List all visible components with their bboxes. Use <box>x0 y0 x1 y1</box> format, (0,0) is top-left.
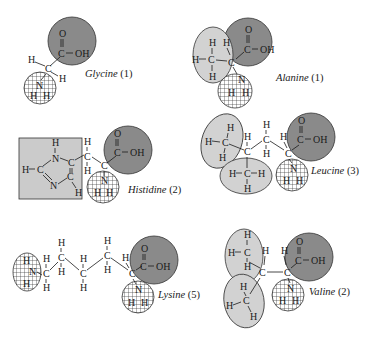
atom-n: N <box>238 74 245 85</box>
atom-h: H <box>28 54 35 65</box>
atom-h: H <box>296 175 303 186</box>
atom-c: C <box>222 137 229 148</box>
atom-oh: OH <box>313 134 327 145</box>
atom-h: H <box>279 295 286 306</box>
atom-c: C <box>84 151 91 162</box>
atom-o: O <box>296 236 303 247</box>
valine-label: Valine (2) <box>309 286 351 298</box>
atom-h: H <box>52 137 59 148</box>
atom-c: C <box>129 268 136 279</box>
atom-h: H <box>240 281 247 292</box>
atom-h: H <box>141 297 148 308</box>
atom-h: H <box>244 131 251 142</box>
atom-h: H <box>84 165 91 176</box>
atom-o: O <box>245 24 252 35</box>
atom-c: C <box>244 247 251 258</box>
atom-n: N <box>50 180 57 191</box>
carboxyl-group <box>285 233 333 281</box>
atom-c: C <box>244 44 251 55</box>
atom-h: H <box>22 164 29 175</box>
atom-h: H <box>244 183 251 194</box>
atom-n: N <box>29 266 36 277</box>
atom-h: H <box>43 282 50 293</box>
atom-n: N <box>52 153 59 164</box>
atom-o: O <box>114 128 121 139</box>
atom-c: C <box>295 255 302 266</box>
atom-h: H <box>262 245 269 256</box>
atom-h: H <box>58 266 65 277</box>
atom-c: C <box>263 134 270 145</box>
atom-n: N <box>287 283 294 294</box>
atom-c: C <box>284 267 291 278</box>
atom-h: H <box>209 37 216 48</box>
alanine-structure: O C OH H H C H H C N H H Alanine (1) <box>192 18 324 108</box>
atom-h: H <box>84 136 91 147</box>
atom-h: H <box>30 90 37 101</box>
lysine-label: Lysine (5) <box>157 289 200 301</box>
atom-h: H <box>106 187 113 198</box>
atom-h: H <box>227 122 234 133</box>
atom-h: H <box>292 295 299 306</box>
atom-c: C <box>208 54 215 65</box>
atom-c: C <box>228 57 235 68</box>
atom-c: C <box>244 146 251 157</box>
alanine-label: Alanine (1) <box>275 72 324 84</box>
amino-acid-diagram: O C OH H C H N H H Glycine (1) O C OH H … <box>0 0 370 342</box>
atom-h: H <box>104 264 111 275</box>
atom-h: H <box>128 297 135 308</box>
atom-h: H <box>192 54 199 65</box>
atom-h: H <box>228 247 235 258</box>
atom-c: C <box>297 134 304 145</box>
carboxyl-group <box>130 236 178 284</box>
atom-h: H <box>75 187 82 198</box>
atom-c: C <box>58 252 65 263</box>
histidine-label: Histidine (2) <box>127 184 182 196</box>
atom-h: H <box>23 278 30 289</box>
atom-o: O <box>298 115 305 126</box>
atom-h: H <box>223 37 230 48</box>
atom-c: C <box>67 171 74 182</box>
atom-h: H <box>94 187 101 198</box>
atom-oh: OH <box>75 48 89 59</box>
atom-h: H <box>80 253 87 264</box>
leucine-structure: H H C H H C H C H H H C H H C O <box>194 108 360 194</box>
atom-c: C <box>259 267 266 278</box>
atom-oh: OH <box>311 255 325 266</box>
valine-structure: H H C H H H C H H C H C O C OH N H <box>220 229 351 331</box>
atom-h: H <box>80 282 87 293</box>
atom-n: N <box>135 284 142 295</box>
atom-h: H <box>283 175 290 186</box>
atom-h: H <box>122 252 129 263</box>
atom-h: H <box>229 168 236 179</box>
atom-h: H <box>205 136 212 147</box>
atom-h: H <box>228 87 235 98</box>
atom-h: H <box>23 255 30 266</box>
atom-c: C <box>140 261 147 272</box>
atom-h: H <box>226 300 233 311</box>
glycine-label: Glycine (1) <box>85 68 133 80</box>
leucine-label: Leucine (3) <box>310 165 360 177</box>
atom-h: H <box>263 148 270 159</box>
atom-c: C <box>43 268 50 279</box>
atom-c: C <box>104 250 111 261</box>
atom-h: H <box>280 131 287 142</box>
atom-h: H <box>59 73 66 84</box>
atom-h: H <box>242 87 249 98</box>
atom-oh: OH <box>260 44 274 55</box>
glycine-structure: O C OH H C H N H H Glycine (1) <box>24 17 133 104</box>
atom-oh: OH <box>156 261 170 272</box>
atom-n: N <box>290 163 297 174</box>
atom-c: C <box>244 168 251 179</box>
atom-o: O <box>141 243 148 254</box>
atom-h: H <box>58 237 65 248</box>
atom-h: H <box>244 229 251 240</box>
atom-c: C <box>101 160 108 171</box>
atom-h: H <box>258 168 265 179</box>
lysine-structure: H N H H C H H C H H C H H C H H C <box>13 235 200 313</box>
atom-c: C <box>68 157 75 168</box>
atom-oh: OH <box>130 147 144 158</box>
atom-c: C <box>285 148 292 159</box>
histidine-structure: H N H C N C C H H C H C O C OH N H H <box>19 126 182 203</box>
atom-h: H <box>250 311 257 322</box>
atom-h: H <box>43 90 50 101</box>
